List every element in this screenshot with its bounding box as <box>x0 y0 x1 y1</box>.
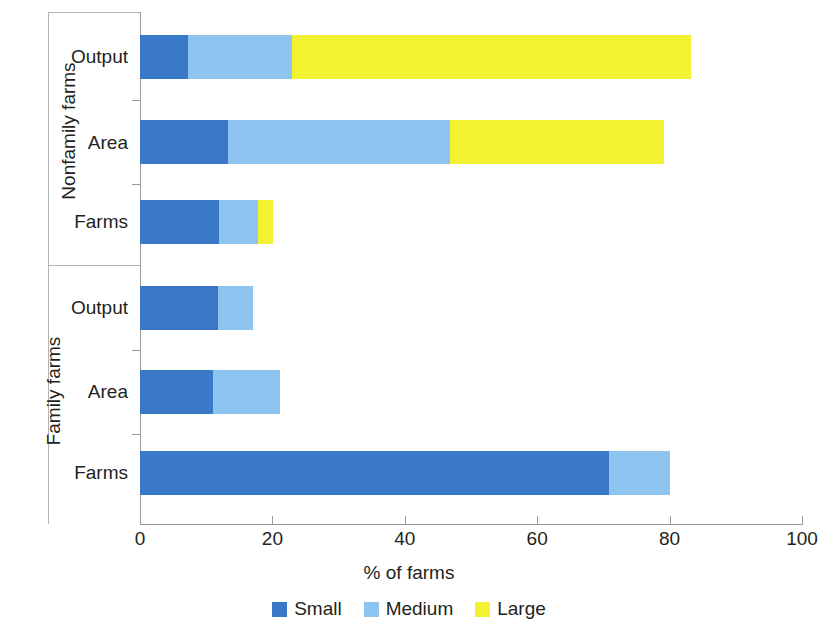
x-tick-mark-100 <box>802 516 803 525</box>
bar-family-output-segment-small <box>140 286 218 330</box>
y-tick-2 <box>132 184 141 185</box>
bar-family-output-segment-medium <box>218 286 253 330</box>
stacked-bar-chart: Nonfamily farms Family farms Output Area… <box>0 0 818 625</box>
legend-label-large: Large <box>497 598 546 620</box>
bar-nonfamily-farms <box>140 200 273 244</box>
ycat-label-family-farms: Farms <box>60 462 128 484</box>
x-tick-mark-80 <box>670 516 671 525</box>
bar-nonfamily-output-segment-small <box>140 35 188 79</box>
x-axis-title: % of farms <box>0 562 818 584</box>
bar-nonfamily-area <box>140 120 664 164</box>
x-tick-label-20: 20 <box>262 528 283 550</box>
ycat-label-nonfamily-area: Area <box>60 132 128 154</box>
group-rule-middle <box>48 265 140 266</box>
bar-family-farms-segment-medium <box>609 451 669 495</box>
group-title-nonfamily-text: Nonfamily farms <box>58 62 80 199</box>
y-tick-3 <box>132 350 141 351</box>
group-rule-top <box>48 12 140 13</box>
x-tick-mark-40 <box>405 516 406 525</box>
ycat-label-family-area: Area <box>60 381 128 403</box>
bar-nonfamily-area-segment-medium <box>228 120 450 164</box>
y-tick-4 <box>132 434 141 435</box>
x-tick-label-80: 80 <box>659 528 680 550</box>
legend-item-large[interactable]: Large <box>475 598 546 620</box>
x-axis-line <box>140 524 802 525</box>
legend-item-medium[interactable]: Medium <box>364 598 454 620</box>
bar-family-farms-segment-small <box>140 451 609 495</box>
bar-nonfamily-output-segment-large <box>292 35 691 79</box>
group-bracket-nonfamily <box>48 12 49 265</box>
ycat-label-family-output: Output <box>60 297 128 319</box>
x-tick-label-60: 60 <box>527 528 548 550</box>
y-tick-1 <box>132 100 141 101</box>
bar-nonfamily-farms-segment-small <box>140 200 219 244</box>
ycat-label-nonfamily-farms: Farms <box>60 211 128 233</box>
bar-nonfamily-farms-segment-medium <box>219 200 258 244</box>
group-title-nonfamily: Nonfamily farms <box>0 120 40 142</box>
bar-nonfamily-farms-segment-large <box>258 200 273 244</box>
x-tick-mark-0 <box>140 516 141 525</box>
small-swatch-icon <box>272 602 287 617</box>
ycat-label-nonfamily-output: Output <box>60 46 128 68</box>
x-tick-mark-20 <box>272 516 273 525</box>
bar-family-area <box>140 370 280 414</box>
bar-nonfamily-output <box>140 35 691 79</box>
bar-nonfamily-area-segment-large <box>450 120 664 164</box>
x-tick-label-100: 100 <box>786 528 818 550</box>
medium-swatch-icon <box>364 602 379 617</box>
bar-family-area-segment-medium <box>213 370 280 414</box>
bar-family-farms <box>140 451 670 495</box>
x-tick-mark-60 <box>537 516 538 525</box>
bar-nonfamily-output-segment-medium <box>188 35 293 79</box>
legend-item-small[interactable]: Small <box>272 598 342 620</box>
group-title-family: Family farms <box>0 380 40 402</box>
x-tick-label-0: 0 <box>135 528 146 550</box>
legend-label-medium: Medium <box>386 598 454 620</box>
bar-family-area-segment-small <box>140 370 213 414</box>
y-axis-line <box>140 12 141 524</box>
bar-nonfamily-area-segment-small <box>140 120 228 164</box>
large-swatch-icon <box>475 602 490 617</box>
legend-label-small: Small <box>294 598 342 620</box>
bar-family-output <box>140 286 253 330</box>
x-tick-label-40: 40 <box>394 528 415 550</box>
legend: SmallMediumLarge <box>0 598 818 620</box>
